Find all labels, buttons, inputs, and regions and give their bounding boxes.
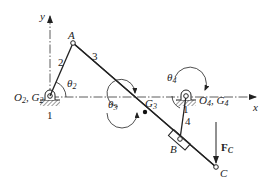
pivot-O4 bbox=[184, 94, 189, 99]
A-label: A bbox=[67, 29, 75, 41]
theta3-label: θ3 bbox=[108, 98, 117, 112]
link-4-label: 4 bbox=[185, 115, 191, 127]
point-C bbox=[214, 165, 219, 170]
theta2-arc bbox=[56, 82, 66, 97]
O2-G2-label: O2, G2 bbox=[14, 91, 43, 105]
pin-A bbox=[71, 41, 76, 46]
theta3-arc-lower bbox=[107, 113, 137, 128]
O4-G4-label: O4, G4 bbox=[199, 94, 228, 108]
pin-B bbox=[178, 137, 183, 142]
C-label: C bbox=[220, 167, 228, 179]
force-Fc-label: FC bbox=[221, 141, 234, 155]
center-of-mass-G3 bbox=[143, 110, 147, 114]
B-label: B bbox=[170, 143, 177, 155]
x-axis-label: x bbox=[252, 101, 258, 113]
link-1-left-label: 1 bbox=[47, 109, 53, 121]
y-axis-label: y bbox=[39, 10, 45, 22]
linkage-diagram: y x 1 2 θ2 3 θ3 G3 4 1 θ4 B A bbox=[0, 0, 272, 186]
theta4-label: θ4 bbox=[167, 71, 176, 85]
theta2-label: θ2 bbox=[67, 77, 76, 91]
G3-label: G3 bbox=[145, 97, 157, 111]
link-2-label: 2 bbox=[58, 56, 64, 68]
theta4-arc bbox=[175, 67, 206, 90]
link-1-right-label: 1 bbox=[183, 103, 189, 115]
